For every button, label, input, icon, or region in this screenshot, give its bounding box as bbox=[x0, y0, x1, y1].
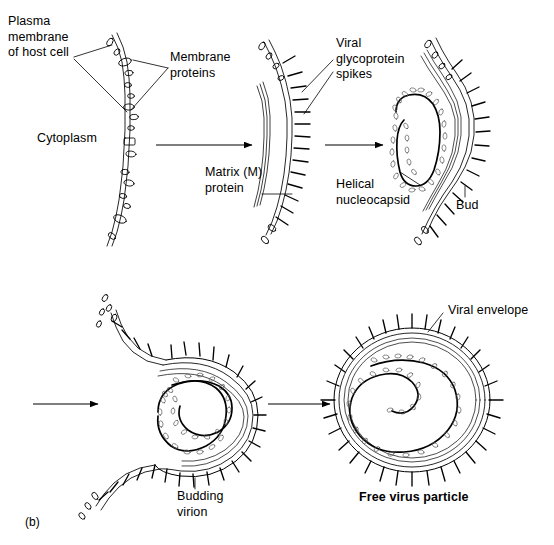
helical-nucleocapsid-stage5 bbox=[347, 354, 461, 457]
leader-membrane-proteins-a bbox=[133, 60, 168, 68]
viral-budding-figure: Plasma membrane of host cell Membrane pr… bbox=[0, 0, 554, 545]
stage-2-membrane-spikes-matrix bbox=[254, 40, 310, 245]
label-matrix-protein: Matrix (M) protein bbox=[205, 165, 262, 196]
label-bud: Bud bbox=[456, 198, 479, 214]
stage-4-budding-virion bbox=[78, 294, 266, 521]
leader-spikes-b bbox=[304, 72, 333, 114]
panel-label-b: (b) bbox=[25, 515, 40, 531]
leader-spikes-a bbox=[302, 60, 333, 92]
label-viral-envelope: Viral envelope bbox=[448, 303, 528, 319]
leader-plasma-membrane bbox=[74, 45, 112, 57]
stage-1-host-cell-membrane bbox=[106, 33, 139, 246]
leader-membrane-proteins-b bbox=[131, 68, 168, 110]
stage-5-free-virus-particle bbox=[321, 314, 503, 486]
label-cytoplasm: Cytoplasm bbox=[37, 131, 97, 147]
label-free-virus-particle: Free virus particle bbox=[359, 490, 469, 506]
leader-plasma-membrane-b bbox=[74, 59, 127, 112]
label-plasma-membrane: Plasma membrane of host cell bbox=[8, 14, 69, 61]
label-membrane-proteins: Membrane proteins bbox=[170, 50, 231, 81]
diagram-canvas bbox=[0, 0, 554, 545]
label-viral-glycoprotein-spikes: Viral glycoprotein spikes bbox=[336, 36, 405, 83]
helical-nucleocapsid-stage4 bbox=[158, 373, 232, 455]
label-budding-virion: Budding virion bbox=[177, 489, 224, 520]
label-helical-nucleocapsid: Helical nucleocapsid bbox=[336, 177, 410, 208]
stage-3-nucleocapsid-bud bbox=[390, 38, 490, 246]
glycoprotein-spike-set bbox=[276, 56, 310, 225]
